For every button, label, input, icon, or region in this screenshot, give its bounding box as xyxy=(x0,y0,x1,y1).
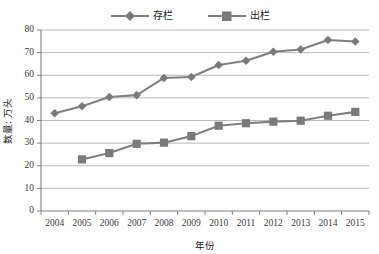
data-point-marker[interactable] xyxy=(78,155,86,163)
data-point-marker[interactable] xyxy=(242,119,250,127)
data-point-marker[interactable] xyxy=(105,149,113,157)
data-point-marker[interactable] xyxy=(215,122,223,130)
data-point-marker[interactable] xyxy=(324,112,332,120)
data-point-marker[interactable] xyxy=(324,36,333,45)
x-tick-label: 2005 xyxy=(73,218,92,228)
gridlines xyxy=(41,30,369,188)
y-tick-label: 10 xyxy=(25,183,35,193)
x-tick-label: 2015 xyxy=(346,218,365,228)
x-tick-label: 2012 xyxy=(264,218,283,228)
data-series-layer xyxy=(50,36,359,164)
x-tick-label: 2009 xyxy=(182,218,201,228)
data-point-marker[interactable] xyxy=(269,118,277,126)
y-tick-label: 70 xyxy=(25,47,35,57)
y-tick-label: 20 xyxy=(25,160,35,170)
data-point-marker[interactable] xyxy=(187,132,195,140)
x-tick-label: 2014 xyxy=(319,218,338,228)
chart-svg: 01020304050607080 2004200520062007200820… xyxy=(0,0,379,254)
data-point-marker[interactable] xyxy=(297,117,305,125)
x-tick-label: 2004 xyxy=(45,218,64,228)
data-point-marker[interactable] xyxy=(351,37,360,46)
y-axis-ticks: 01020304050607080 xyxy=(25,24,42,215)
data-point-marker[interactable] xyxy=(78,102,87,111)
data-point-marker[interactable] xyxy=(214,61,223,70)
x-tick-label: 2010 xyxy=(209,218,228,228)
y-tick-label: 40 xyxy=(25,115,35,125)
y-tick-label: 60 xyxy=(25,69,35,79)
y-tick-label: 50 xyxy=(25,92,35,102)
data-point-marker[interactable] xyxy=(269,47,278,56)
data-point-marker[interactable] xyxy=(105,93,114,102)
x-tick-label: 2011 xyxy=(237,218,256,228)
data-point-marker[interactable] xyxy=(351,108,359,116)
data-point-marker[interactable] xyxy=(242,56,251,65)
x-tick-label: 2006 xyxy=(100,218,119,228)
series-line xyxy=(82,112,355,160)
y-tick-label: 30 xyxy=(25,137,35,147)
data-point-marker[interactable] xyxy=(160,139,168,147)
x-tick-label: 2013 xyxy=(291,218,310,228)
plot-area: 01020304050607080 2004200520062007200820… xyxy=(0,0,379,254)
x-axis-title: 年份 xyxy=(195,240,215,251)
x-tick-label: 2008 xyxy=(155,218,174,228)
y-tick-label: 0 xyxy=(29,205,34,215)
series-line xyxy=(55,40,356,113)
data-point-marker[interactable] xyxy=(50,109,59,118)
data-point-marker[interactable] xyxy=(187,73,196,82)
x-tick-label: 2007 xyxy=(127,218,146,228)
y-axis-title: 数量: 万头 xyxy=(2,98,13,144)
line-chart: 存栏 出栏 01020304050607080 2004200520062007… xyxy=(0,0,379,254)
x-axis-ticks: 2004200520062007200820092010201120122013… xyxy=(41,211,369,228)
y-tick-label: 80 xyxy=(25,24,35,34)
data-point-marker[interactable] xyxy=(133,140,141,148)
